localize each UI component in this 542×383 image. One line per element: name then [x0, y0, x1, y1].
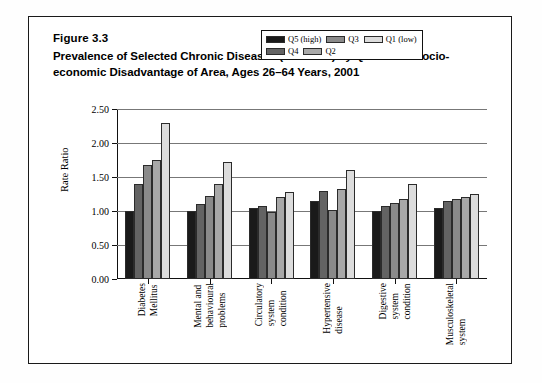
- y-axis-tick: [112, 279, 117, 280]
- bar: [223, 162, 232, 279]
- bar: [276, 197, 285, 279]
- chart-legend: Q5 (high)Q3Q1 (low) Q4Q2: [261, 30, 423, 60]
- x-axis-category: Digestivesystemcondition: [364, 283, 426, 378]
- bar: [196, 204, 205, 279]
- bar: [285, 192, 294, 279]
- legend-item: Q4: [266, 46, 298, 56]
- bar: [381, 206, 390, 279]
- bar: [310, 201, 319, 279]
- x-axis-category-line: behavioural: [204, 283, 215, 328]
- bar-group: [364, 109, 426, 279]
- y-axis-tick-label: 2.50: [92, 104, 110, 115]
- bar: [408, 184, 417, 279]
- figure-page: Figure 3.3 Prevalence of Selected Chroni…: [0, 0, 542, 383]
- x-axis-category-line: condition: [278, 283, 289, 326]
- bar: [267, 212, 276, 279]
- legend-row-2: Q4Q2: [266, 46, 417, 56]
- y-axis-label: Rate Ratio: [59, 147, 70, 192]
- y-axis-tick-label: 0.00: [92, 274, 110, 285]
- x-axis-category: DiabetesMellitus: [117, 283, 179, 378]
- legend-row-1: Q5 (high)Q3Q1 (low): [266, 34, 417, 44]
- x-axis-category: Circulatorysystemcondition: [240, 283, 302, 378]
- legend-item: Q5 (high): [266, 34, 321, 44]
- bar: [134, 184, 143, 279]
- bar: [337, 189, 346, 279]
- legend-label: Q5 (high): [288, 34, 321, 44]
- bar: [125, 211, 134, 279]
- legend-label: Q4: [288, 46, 298, 56]
- x-axis-category-line: disease: [333, 283, 344, 334]
- bar: [399, 199, 408, 279]
- x-axis-category-line: condition: [401, 283, 412, 319]
- bar: [214, 184, 223, 279]
- legend-swatch: [266, 48, 285, 55]
- legend-label: Q3: [348, 34, 358, 44]
- bar-group: [240, 109, 302, 279]
- bar: [346, 170, 355, 279]
- bar: [143, 165, 152, 279]
- bar: [328, 210, 337, 279]
- x-axis-labels: DiabetesMellitusMental andbehaviouralpro…: [117, 283, 487, 378]
- bar: [258, 206, 267, 279]
- y-axis-tick-label: 1.00: [92, 206, 110, 217]
- x-axis-category-line: Mental and: [192, 283, 203, 328]
- legend-swatch: [266, 36, 285, 43]
- x-axis-category: Hypertensivedisease: [302, 283, 364, 378]
- bar: [205, 196, 214, 279]
- bar: [249, 208, 258, 279]
- legend-swatch: [326, 36, 345, 43]
- bar: [390, 203, 399, 279]
- x-axis-category: Musculoskeletalsystem: [425, 283, 487, 378]
- x-axis-category-line: Musculoskeletal: [445, 283, 456, 345]
- bar: [461, 197, 470, 279]
- x-axis-category-line: problems: [216, 283, 227, 328]
- legend-swatch: [364, 36, 383, 43]
- bar: [372, 211, 381, 279]
- bar: [319, 191, 328, 279]
- legend-item: Q1 (low): [364, 34, 417, 44]
- legend-swatch: [303, 48, 322, 55]
- x-axis-category-line: Hypertensive: [321, 283, 332, 334]
- bar-groups: [117, 109, 487, 279]
- bar-group: [425, 109, 487, 279]
- legend-item: Q3: [326, 34, 358, 44]
- figure-frame: Figure 3.3 Prevalence of Selected Chroni…: [28, 16, 512, 364]
- bar: [187, 211, 196, 279]
- bar: [152, 160, 161, 279]
- bar: [443, 201, 452, 279]
- x-axis-category-line: system: [389, 283, 400, 319]
- legend-item: Q2: [303, 46, 335, 56]
- y-axis-tick-label: 0.50: [92, 240, 110, 251]
- bar: [470, 194, 479, 279]
- legend-label: Q2: [325, 46, 335, 56]
- bar: [434, 208, 443, 279]
- x-axis-category-line: Mellitus: [148, 283, 159, 316]
- x-axis-category-line: system: [266, 283, 277, 326]
- bar-group: [117, 109, 179, 279]
- bar-group: [179, 109, 241, 279]
- legend-label: Q1 (low): [386, 34, 417, 44]
- x-axis-category-line: system: [457, 283, 468, 345]
- bar: [452, 199, 461, 279]
- x-axis-category-line: Circulatory: [254, 283, 265, 326]
- plot-area: 0.000.501.001.502.002.50: [117, 109, 487, 279]
- bar-group: [302, 109, 364, 279]
- x-axis-category-line: Digestive: [377, 283, 388, 319]
- x-axis-category-line: Diabetes: [136, 283, 147, 316]
- y-axis-tick-label: 1.50: [92, 172, 110, 183]
- bar: [161, 123, 170, 279]
- x-axis-category: Mental andbehaviouralproblems: [179, 283, 241, 378]
- y-axis-tick-label: 2.00: [92, 138, 110, 149]
